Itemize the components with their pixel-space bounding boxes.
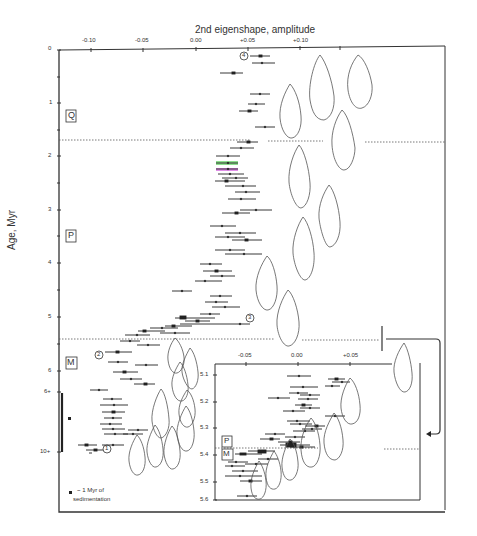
specimen-outlines (129, 55, 412, 475)
inset-y-tick-label: 5.4 (200, 451, 208, 457)
x-tick-label: 0.00 (190, 37, 202, 43)
y-tick-label: 1 (49, 99, 52, 105)
legend-text-line1: ~ 1 Myr of (77, 487, 104, 493)
data-points (78, 55, 275, 453)
x-tick-label: -0.05 (135, 37, 149, 43)
y-axis-title: Age, Myr (6, 210, 17, 250)
y-tick-label: 2 (48, 152, 51, 158)
marker-label-2: 2 (97, 351, 100, 357)
inset-epoch-label-p: P (224, 436, 229, 445)
inset-y-tick-label: 5.3 (200, 424, 208, 430)
x-tick-label: +0.05 (240, 37, 255, 43)
y-tick-label: 3 (48, 206, 51, 212)
inset-connector (382, 326, 440, 434)
inset-x-tick-label: 0.00 (291, 352, 303, 358)
marker-label-3: 3 (248, 314, 251, 320)
marker-label-4: 4 (242, 52, 245, 58)
y-tick-label: 10+ (40, 448, 50, 454)
epoch-label-p: P (68, 230, 74, 240)
x-tick-label: +0.10 (293, 37, 308, 43)
inset-epoch-label-m: M (223, 449, 230, 458)
sedimentation-scale-bar (62, 393, 72, 494)
x-axis-title: 2nd eigenshape, amplitude (195, 24, 315, 35)
circled-markers (95, 52, 254, 453)
inset-y-tick-label: 5.1 (200, 371, 208, 377)
epoch-label-m: M (67, 357, 75, 367)
marker-label-1: 1 (105, 445, 108, 451)
y-tick-label: 4 (48, 259, 51, 265)
y-tick-label: 0 (48, 45, 51, 51)
y-tick-label: 6+ (44, 388, 51, 394)
eigenshape-figure (0, 0, 477, 536)
main-plot-frame (59, 46, 445, 512)
epoch-label-q: Q (68, 110, 75, 120)
legend-text-line2: sedimentation (73, 496, 110, 502)
connector-arrowhead (426, 431, 431, 437)
inset-y-tick-label: 5.6 (200, 496, 208, 502)
inset-x-tick-label: -0.05 (238, 352, 252, 358)
y-tick-label: 6 (48, 367, 51, 373)
inset-x-tick-label: +0.05 (343, 352, 358, 358)
inset-y-tick-label: 5.5 (200, 478, 208, 484)
inset-y-tick-label: 5.2 (200, 398, 208, 404)
inset-boundary (215, 448, 420, 449)
x-tick-label: -0.10 (82, 37, 96, 43)
inset-data-points (225, 375, 350, 497)
y-tick-label: 5 (48, 313, 51, 319)
